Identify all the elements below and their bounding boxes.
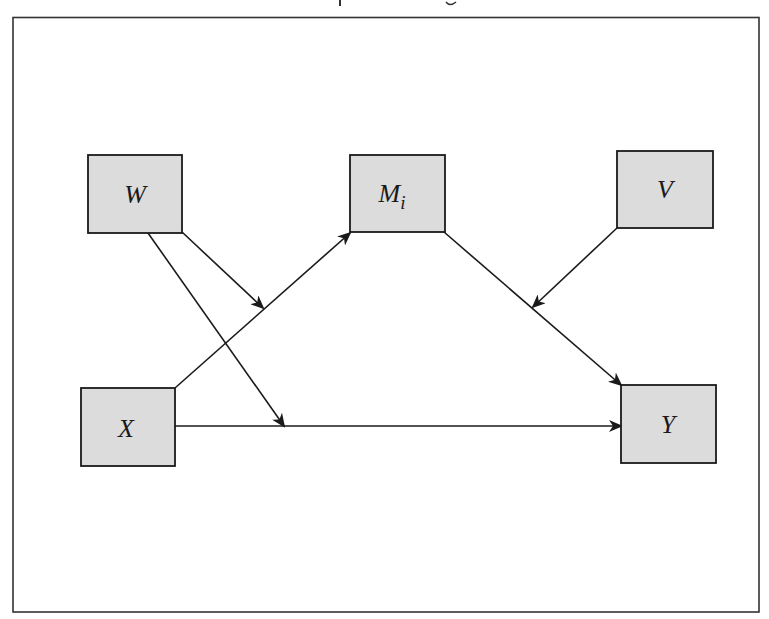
- node-w-label: W: [124, 180, 148, 209]
- figure-frame: [13, 18, 759, 613]
- node-v: V: [617, 151, 713, 228]
- edges: [148, 228, 621, 426]
- edge-m-to-y: [444, 232, 621, 385]
- node-m-subscript: i: [400, 192, 405, 213]
- edge-x-to-m: [175, 233, 350, 388]
- node-y-label: Y: [661, 410, 678, 439]
- node-x-label: X: [117, 414, 135, 443]
- edge-v-moderates-m-y: [533, 228, 617, 307]
- node-m-label: M: [378, 179, 402, 208]
- node-y: Y: [621, 385, 716, 463]
- moderated-mediation-diagram: W Mi V X Y: [0, 0, 769, 619]
- node-x: X: [81, 388, 175, 466]
- node-m: Mi: [350, 155, 445, 232]
- edge-w-moderates-x-m: [182, 232, 263, 308]
- node-w: W: [88, 155, 182, 233]
- clipped-caption-fragment: [339, 0, 456, 6]
